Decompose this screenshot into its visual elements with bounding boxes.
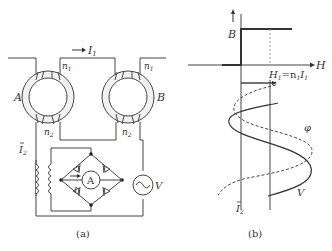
label-n1-left: n1 [62,61,72,72]
caption-b: (b) [248,228,262,239]
label-axis-B: B [227,28,236,41]
label-V: V [297,187,306,198]
caption-a: (a) [76,228,90,239]
transformer-coil-secondary [49,164,52,194]
label-I2: I2 [18,144,27,156]
wire-secondary-link [60,122,116,140]
label-n2-right: n2 [122,127,132,138]
wire-bridge-top [51,148,91,164]
diode-icon [103,187,110,196]
label-n2-left: n2 [44,127,54,138]
label-ammeter: A [86,175,95,186]
arrow-up-icon [231,9,235,14]
waveform-phi [218,85,312,195]
current-arrow-ammeter [70,174,81,178]
label-core-A: A [13,91,22,104]
diagram-canvas: I1 A n1 B n1 n2 n2 [0,0,332,251]
toroid-core-A [22,71,74,124]
figure-a-circuit: I1 A n1 B n1 n2 n2 [8,44,166,239]
label-axis-H: H [315,59,326,72]
current-arrow-I1 [72,48,86,53]
transformer-coil-primary [36,160,39,196]
label-phi: φ [304,122,311,133]
wire-secondary-right [140,122,143,171]
arrow-right-icon [310,63,315,68]
label-n1-right: n1 [144,61,154,72]
figure-b-waveforms: B H H1=n1I1 φ V I2 (b) [188,9,326,239]
label-H1: H1=n1I1 [268,69,308,81]
wire-bridge-bottom [51,194,91,211]
toroid-core-B [102,71,154,124]
diode-icon [73,164,80,173]
label-I1: I1 [87,44,97,58]
label-source-V: V [155,180,164,191]
label-I2-wave: I2 [235,203,244,215]
label-core-B: B [156,91,165,104]
ac-source-icon [133,175,153,195]
